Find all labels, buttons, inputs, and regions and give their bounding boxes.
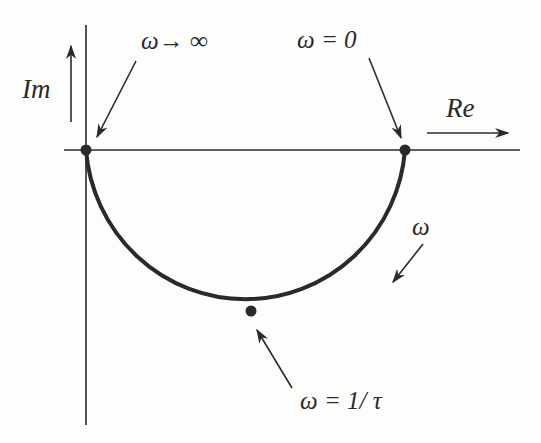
omega-zero-pointer-icon — [369, 58, 401, 138]
omega-infinity-label: ω→ ∞ — [141, 28, 208, 53]
origin-point — [81, 145, 92, 156]
imaginary-axis-label: Im — [22, 76, 51, 103]
omega-corner-label: ω = 1/ τ — [300, 388, 382, 413]
omega-zero-label: ω = 0 — [297, 27, 357, 52]
omega-corner-pointer-icon — [257, 330, 292, 388]
nyquist-diagram: Im Re ω→ ∞ ω = 0 ω ω = 1/ τ — [0, 0, 541, 443]
omega-zero-point — [400, 145, 411, 156]
omega-direction-arrow-icon — [393, 244, 423, 282]
omega-direction-label: ω — [412, 214, 430, 239]
diagram-svg — [0, 0, 541, 443]
nyquist-locus-curve — [86, 150, 405, 299]
omega-infinity-pointer-icon — [97, 61, 136, 137]
real-axis-label: Re — [446, 95, 474, 122]
omega-corner-point — [246, 306, 257, 317]
